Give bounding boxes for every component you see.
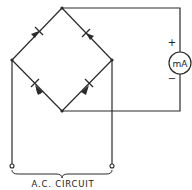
node-bottom (60, 109, 63, 112)
wire-bottom-right (62, 60, 112, 111)
node-top (60, 6, 63, 9)
bridge-rectifier-diagram: mA + − A.C. CIRCUIT (0, 0, 192, 190)
node-right (110, 58, 113, 61)
node-left (10, 58, 13, 61)
wire-bottom-left (12, 60, 62, 111)
brace (12, 170, 112, 178)
terminal-left (10, 164, 14, 168)
meter-label: mA (173, 59, 189, 69)
diode-top-left-icon (31, 27, 43, 38)
wire-to-meter-positive (62, 8, 180, 52)
ac-circuit-caption: A.C. CIRCUIT (31, 179, 94, 189)
meter-positive-sign: + (168, 37, 176, 48)
terminal-right (110, 164, 114, 168)
meter-negative-sign: − (168, 73, 176, 84)
